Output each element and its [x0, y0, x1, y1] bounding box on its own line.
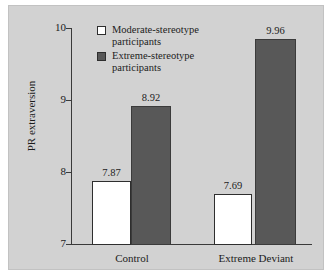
y-tick-mark — [66, 244, 72, 245]
y-tick-mark — [66, 28, 72, 29]
y-tick-label: 8 — [44, 166, 66, 177]
bar-value-deviant-moderate: 7.69 — [204, 180, 262, 191]
bar-value-control-extreme: 8.92 — [121, 92, 181, 103]
legend-label: Extreme-stereotype participants — [112, 50, 237, 74]
bar-deviant-extreme — [255, 39, 296, 245]
y-tick-label: 10 — [44, 22, 66, 33]
legend-label: Moderate-stereotype participants — [112, 24, 237, 48]
y-tick-9: 9 — [9, 100, 66, 101]
y-tick-label: 7 — [44, 238, 66, 249]
legend-swatch-icon — [97, 26, 106, 35]
bar-control-moderate — [92, 181, 131, 245]
y-tick-7: 7 — [9, 244, 66, 245]
y-tick-mark — [66, 172, 72, 173]
x-category-label-extreme-deviant: Extreme Deviant — [208, 252, 304, 264]
legend-swatch-icon — [97, 52, 106, 61]
y-axis-title: PR extraversion — [25, 56, 37, 176]
x-category-label-control: Control — [91, 252, 173, 264]
bar-control-extreme — [131, 106, 171, 245]
bar-deviant-moderate — [214, 194, 252, 245]
y-tick-10: 10 — [9, 28, 66, 29]
legend-item-moderate: Moderate-stereotype participants — [97, 24, 237, 48]
legend-item-extreme: Extreme-stereotype participants — [97, 50, 237, 74]
chart-panel: 10 9 8 7 PR extraversion 7.87 8.92 7.69 … — [8, 5, 324, 270]
y-tick-mark — [66, 100, 72, 101]
chart-figure: 10 9 8 7 PR extraversion 7.87 8.92 7.69 … — [0, 0, 332, 279]
chart-legend: Moderate-stereotype participants Extreme… — [97, 24, 237, 76]
y-tick-label: 9 — [44, 94, 66, 105]
y-tick-8: 8 — [9, 172, 66, 173]
y-axis-line — [71, 28, 72, 245]
bar-value-deviant-extreme: 9.96 — [245, 25, 306, 36]
